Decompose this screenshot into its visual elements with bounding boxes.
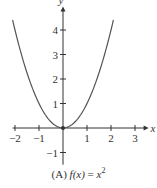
caption-function: f(x) bbox=[70, 168, 85, 180]
chart-caption: (A) f(x) = x2 bbox=[0, 166, 157, 180]
y-tick-label: 4 bbox=[53, 24, 59, 36]
y-tick-label: −1 bbox=[46, 147, 58, 159]
y-tick-label: 3 bbox=[53, 49, 59, 61]
x-tick-label: −1 bbox=[33, 132, 45, 144]
y-tick-label: 1 bbox=[53, 98, 59, 110]
x-tick-label: 1 bbox=[84, 132, 90, 144]
x-tick-label: 2 bbox=[108, 132, 114, 144]
x-tick-label: 3 bbox=[132, 132, 138, 144]
x-axis-label: x bbox=[150, 122, 156, 134]
y-tick-label: 2 bbox=[53, 73, 59, 85]
origin-point bbox=[61, 126, 65, 130]
caption-exponent: 2 bbox=[101, 166, 105, 175]
parabola-chart: xy−2−1123−11234 bbox=[0, 0, 157, 188]
axes: xy−2−1123−11234 bbox=[9, 0, 155, 165]
caption-prefix: (A) bbox=[52, 168, 70, 180]
x-axis-arrow-icon bbox=[144, 126, 149, 131]
y-axis-arrow-icon bbox=[61, 6, 66, 11]
caption-equals: = bbox=[85, 168, 97, 180]
y-axis-label: y bbox=[58, 0, 64, 6]
x-tick-label: −2 bbox=[9, 132, 21, 144]
